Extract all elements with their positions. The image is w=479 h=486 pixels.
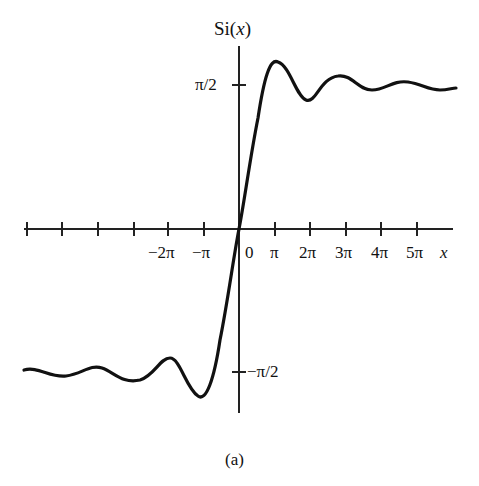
x-tick-label-pi: π (270, 243, 279, 263)
x-tick-label-5pi: 5π (406, 243, 423, 263)
x-axis-label: x (440, 243, 448, 263)
y-axis-label-close: ) (245, 18, 251, 39)
figure-caption: (a) (225, 450, 244, 470)
x-tick-label-neg2pi: −2π (148, 243, 175, 263)
x-tick-label-3pi: 3π (335, 243, 352, 263)
x-tick-label-4pi: 4π (371, 243, 388, 263)
y-axis-label-var: x (236, 18, 244, 39)
x-tick-label-negpi: −π (192, 243, 210, 263)
y-axis-label: Si(x) (214, 18, 251, 40)
y-tick-pi-half: π/2 (195, 75, 217, 95)
y-tick-neg-pi-half: −π/2 (247, 362, 278, 382)
x-tick-label-0: 0 (245, 243, 254, 263)
x-tick-label-2pi: 2π (299, 243, 316, 263)
y-axis-label-fn: Si( (214, 18, 236, 39)
